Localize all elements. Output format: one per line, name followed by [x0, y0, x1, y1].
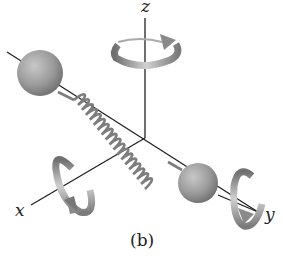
right-sphere: [178, 163, 218, 203]
z-axis-label: z: [141, 0, 150, 16]
left-sphere: [17, 50, 63, 96]
spring: [54, 91, 182, 189]
rotation-arrow-z-icon: [114, 34, 178, 66]
dumbbell-diagram: [0, 0, 283, 268]
figure-caption: (b): [130, 230, 154, 250]
x-axis-label: x: [15, 200, 25, 220]
rotation-arrow-x-icon: [56, 159, 92, 214]
y-axis-label: y: [265, 204, 275, 224]
